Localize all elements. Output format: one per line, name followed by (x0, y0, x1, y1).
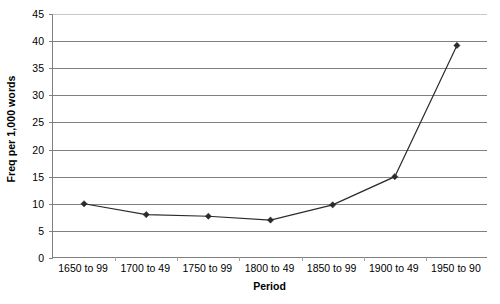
data-point-marker (205, 213, 211, 219)
y-tick-label: 35 (32, 62, 44, 74)
y-tick-mark (49, 258, 53, 259)
y-tick-label: 10 (32, 198, 44, 210)
y-tick-label: 25 (32, 116, 44, 128)
data-point-marker (143, 212, 149, 218)
data-series-frequency (53, 14, 488, 258)
x-tick-label: 1950 to 90 (431, 262, 481, 274)
y-tick-label: 45 (32, 8, 44, 20)
x-tick-label: 1800 to 49 (245, 262, 295, 274)
x-tick-label: 1900 to 49 (369, 262, 419, 274)
y-tick-label: 15 (32, 171, 44, 183)
series-line (84, 45, 457, 220)
y-tick-label: 20 (32, 144, 44, 156)
x-tick-label: 1850 to 99 (307, 262, 357, 274)
x-axis-title: Period (52, 280, 487, 292)
y-tick-label: 0 (38, 252, 44, 264)
line-chart: Freq per 1,000 words 051015202530354045 … (0, 0, 500, 304)
y-axis-title: Freq per 1,000 words (0, 0, 22, 258)
y-axis-title-label: Freq per 1,000 words (5, 75, 17, 182)
data-point-marker (392, 174, 398, 180)
x-axis-tick-labels: 1650 to 991700 to 491750 to 991800 to 49… (52, 262, 487, 278)
data-point-marker (81, 201, 87, 207)
y-tick-label: 30 (32, 89, 44, 101)
plot-area (52, 14, 487, 258)
data-point-marker (454, 42, 460, 48)
y-axis-tick-labels: 051015202530354045 (22, 14, 48, 258)
data-point-marker (330, 202, 336, 208)
y-tick-label: 5 (38, 225, 44, 237)
x-tick-label: 1700 to 49 (120, 262, 170, 274)
x-tick-label: 1750 to 99 (183, 262, 233, 274)
y-tick-label: 40 (32, 35, 44, 47)
data-point-marker (267, 217, 273, 223)
x-tick-label: 1650 to 99 (58, 262, 108, 274)
